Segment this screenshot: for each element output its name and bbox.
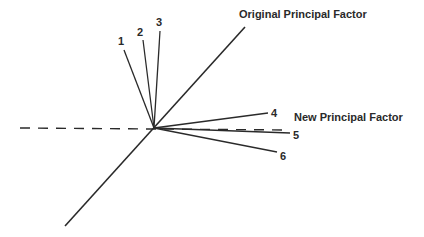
vector-3: [154, 31, 160, 128]
new-principal-factor-label: New Principal Factor: [294, 111, 404, 123]
vector-label-4: 4: [271, 107, 278, 119]
factor-rotation-diagram: 1 2 3 4 5 6 Original Principal Factor Ne…: [0, 0, 424, 237]
vector-4: [154, 113, 268, 128]
vector-label-6: 6: [280, 150, 286, 162]
vector-label-5: 5: [293, 129, 299, 141]
vector-label-1: 1: [118, 35, 124, 47]
original-principal-factor-axis: [65, 27, 245, 226]
vector-label-2: 2: [137, 26, 143, 38]
vector-label-3: 3: [156, 16, 162, 28]
original-principal-factor-label: Original Principal Factor: [239, 8, 367, 20]
